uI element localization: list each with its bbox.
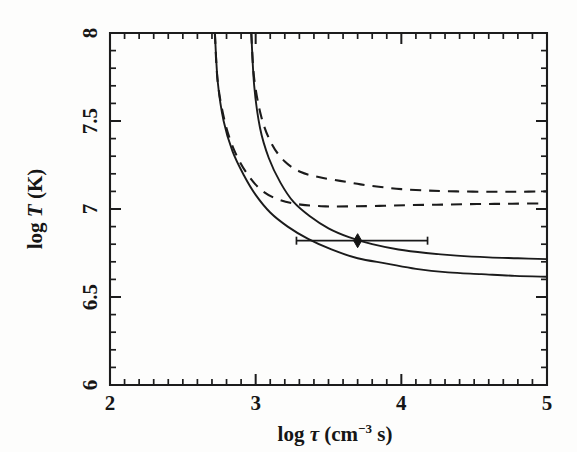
measurement-point-group xyxy=(296,234,427,248)
y-axis-title-text: log T (K) xyxy=(23,169,47,250)
x-axis-ticklabels: 2345 xyxy=(105,391,553,415)
y-axis-ticks xyxy=(110,33,547,385)
x-ticklabel: 2 xyxy=(105,391,116,415)
y-ticklabel: 6.5 xyxy=(78,284,102,310)
x-axis-title-text: log τ (cm−3 s) xyxy=(278,421,393,446)
y-ticklabel: 8 xyxy=(78,28,102,39)
y-ticklabel: 7 xyxy=(78,204,102,215)
x-ticklabel: 5 xyxy=(542,391,553,415)
chart-plot: 2345 87.576.56 log τ (cm−3 s) log T (K) xyxy=(0,0,577,452)
curve-solid-right xyxy=(251,33,547,259)
x-axis-title: log τ (cm−3 s) xyxy=(278,421,393,446)
curve-dashed-lower xyxy=(215,33,547,207)
y-ticklabel: 6 xyxy=(78,380,102,391)
y-axis-title: log T (K) xyxy=(23,169,47,250)
y-ticklabel: 7.5 xyxy=(78,108,102,134)
datapoint-marker xyxy=(354,234,362,248)
x-ticklabel: 3 xyxy=(250,391,261,415)
x-ticklabel: 4 xyxy=(396,391,407,415)
figure-canvas: 2345 87.576.56 log τ (cm−3 s) log T (K) xyxy=(0,0,577,452)
plot-frame xyxy=(110,33,547,385)
x-axis-ticks xyxy=(110,33,547,385)
y-axis-ticklabels: 87.576.56 xyxy=(78,28,102,391)
curve-dashed-upper xyxy=(251,33,547,192)
